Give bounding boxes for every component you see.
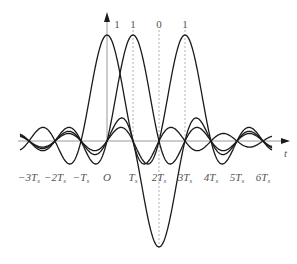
tick-label: 6Ts <box>256 171 271 185</box>
tick-labels: −3Ts−2Ts−TsOTs2Ts3Ts4Ts5Ts6Ts <box>18 171 270 185</box>
y-axis-arrow-icon <box>104 12 110 22</box>
tick-label: Ts <box>129 171 138 185</box>
bit-label: 1 <box>182 18 188 30</box>
tick-label: 4Ts <box>204 171 219 185</box>
tick-label: 5Ts <box>230 171 245 185</box>
bit-label: 1 <box>130 18 136 30</box>
tick-label: −3Ts <box>18 171 40 185</box>
tick-label: −2Ts <box>44 171 66 185</box>
bit-label: 0 <box>156 18 162 30</box>
tick-label: 2Ts <box>152 171 167 185</box>
tick-label: O <box>103 171 111 183</box>
x-axis-arrow-icon <box>281 138 290 144</box>
tick-label: 3Ts <box>177 171 193 185</box>
bit-labels: 1101 <box>114 18 188 30</box>
tick-label: −Ts <box>73 171 90 185</box>
sinc-pulse-diagram: t 1101 −3Ts−2Ts−TsOTs2Ts3Ts4Ts5Ts6Ts <box>0 0 297 264</box>
x-axis-label: t <box>284 147 288 159</box>
bit-label: 1 <box>114 18 120 30</box>
